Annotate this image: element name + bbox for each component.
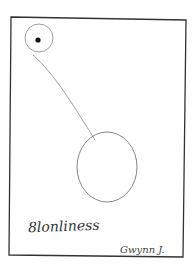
signature-text: Gwynn J. xyxy=(120,244,165,255)
caption-text: 8lonliness xyxy=(28,217,100,235)
connecting-line xyxy=(33,55,95,140)
large-circle xyxy=(77,132,137,202)
dot xyxy=(35,37,40,42)
